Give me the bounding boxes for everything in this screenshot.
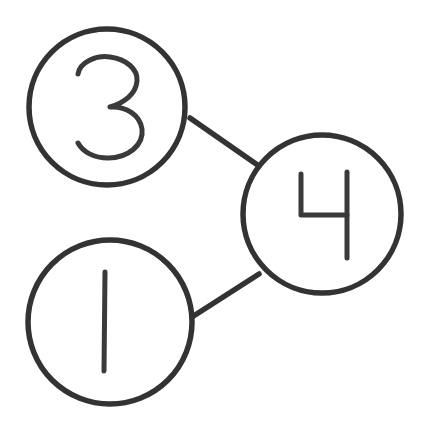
diagram-canvas: 3 4 1 [0, 0, 436, 436]
node-1-label-glyph [104, 272, 105, 371]
node-3-circle[interactable] [29, 29, 185, 185]
node-3-label-glyph [78, 57, 142, 158]
node-1[interactable] [28, 240, 192, 404]
edge-layer [190, 118, 259, 317]
glyph-path-four-left [301, 174, 347, 215]
node-4-label-glyph [301, 172, 347, 258]
node-4[interactable] [243, 135, 401, 293]
node-1-circle[interactable] [28, 240, 192, 404]
glyph-path-three [78, 57, 142, 158]
glyph-path-one [104, 272, 105, 371]
node-graph [0, 0, 436, 436]
node-3[interactable] [29, 29, 185, 185]
edge-node1-node4[interactable] [192, 274, 259, 317]
edge-node3-node4[interactable] [190, 118, 259, 166]
